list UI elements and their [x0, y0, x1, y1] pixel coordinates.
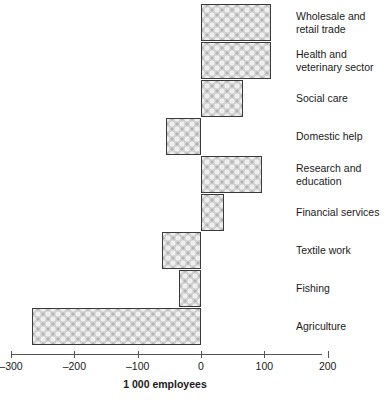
category-label: Financial services [296, 206, 386, 219]
x-tick-label: –200 [52, 360, 96, 372]
x-tick-label: –300 [0, 360, 33, 372]
x-axis-title: 1 000 employees [0, 378, 330, 390]
x-tick [11, 351, 12, 358]
bar[interactable] [162, 232, 201, 269]
category-label: Health and veterinary sector [296, 48, 386, 73]
bar[interactable] [201, 80, 243, 117]
bar-row: Social care [0, 80, 386, 118]
category-label: Wholesale and retail trade [296, 10, 386, 35]
bar-row: Health and veterinary sector [0, 42, 386, 80]
category-label: Social care [296, 92, 386, 105]
x-tick-label: 100 [242, 360, 286, 372]
category-label: Fishing [296, 282, 386, 295]
bar-row: Financial services [0, 194, 386, 232]
bar[interactable] [179, 270, 201, 307]
bar-chart: Wholesale and retail tradeHealth and vet… [0, 0, 386, 405]
bar-row: Fishing [0, 270, 386, 308]
x-tick-label: 0 [179, 360, 223, 372]
x-tick [201, 351, 202, 358]
x-tick [264, 351, 265, 358]
bar[interactable] [201, 4, 271, 41]
bar-row: Wholesale and retail trade [0, 4, 386, 42]
bar-row: Agriculture [0, 308, 386, 346]
bar-row: Textile work [0, 232, 386, 270]
category-label: Domestic help [296, 130, 386, 143]
x-tick [74, 351, 75, 358]
x-tick [138, 351, 139, 358]
x-axis-line [11, 354, 322, 355]
bar-row: Domestic help [0, 118, 386, 156]
x-tick-label: –100 [116, 360, 160, 372]
bar[interactable] [201, 156, 262, 193]
bar[interactable] [32, 308, 201, 345]
bar[interactable] [201, 42, 271, 79]
plot-area: Wholesale and retail tradeHealth and vet… [0, 0, 386, 355]
category-label: Agriculture [296, 320, 386, 333]
x-tick-label: 200 [306, 360, 350, 372]
bar[interactable] [201, 194, 224, 231]
bar[interactable] [166, 118, 201, 155]
bar-row: Research and education [0, 156, 386, 194]
x-tick [328, 351, 329, 358]
category-label: Research and education [296, 162, 386, 187]
category-label: Textile work [296, 244, 386, 257]
